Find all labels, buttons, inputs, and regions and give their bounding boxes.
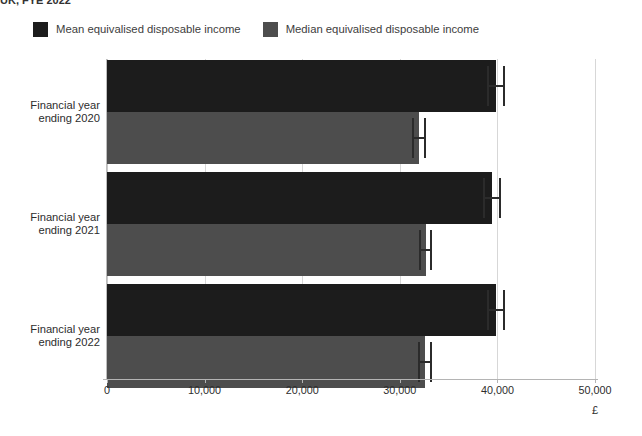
legend-item-mean: Mean equivalised disposable income [33,22,241,37]
x-tick-mark [302,379,303,383]
bar-median [107,112,419,164]
category-label-line2: ending 2021 [4,224,100,237]
x-tick-mark [107,379,108,383]
bar-mean [107,60,496,112]
bar-mean [107,172,492,224]
bar-median [107,336,425,388]
category-label-2: Financial yearending 2022 [4,323,100,349]
bar-mean [107,284,496,336]
error-bar-cap-high [499,178,501,218]
x-tick-label: 40,000 [481,384,514,396]
legend-item-median: Median equivalised disposable income [263,22,479,37]
error-bar-cap-high [424,118,426,158]
legend-swatch-median [263,22,278,37]
x-tick-mark [400,379,401,383]
category-label-line1: Financial year [4,99,100,112]
x-axis-title: £ [592,404,598,416]
x-tick-mark [595,379,596,383]
gridline [497,59,498,379]
category-label-line2: ending 2022 [4,336,100,349]
x-tick-label: 0 [104,384,110,396]
category-label-1: Financial yearending 2021 [4,211,100,237]
error-bar-cap-high [430,342,432,382]
error-bar-cap-high [430,230,432,270]
bar-median [107,224,426,276]
x-tick-label: 50,000 [578,384,611,396]
error-bar-cap-high [503,290,505,330]
x-tick-label: 30,000 [383,384,416,396]
chart-title-clipped: UK, FYE 2022 [0,0,300,7]
plot-area [107,59,595,379]
category-label-line2: ending 2020 [4,112,100,125]
x-tick-mark [497,379,498,383]
x-tick-label: 20,000 [286,384,319,396]
chart-legend: Mean equivalised disposable income Media… [33,22,479,37]
legend-label-mean: Mean equivalised disposable income [56,22,241,37]
category-label-line1: Financial year [4,323,100,336]
gridline [595,59,596,379]
chart-title: UK, FYE 2022 [0,0,300,7]
value-axis-line [103,379,598,380]
legend-swatch-mean [33,22,48,37]
category-label-0: Financial yearending 2020 [4,99,100,125]
error-bar-cap-high [503,66,505,106]
category-label-line1: Financial year [4,211,100,224]
x-tick-mark [205,379,206,383]
x-tick-label: 10,000 [188,384,221,396]
legend-label-median: Median equivalised disposable income [286,22,479,37]
